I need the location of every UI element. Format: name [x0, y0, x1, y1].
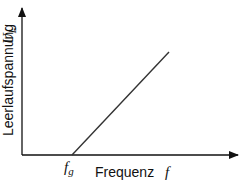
threshold-frequency-label: fg — [64, 159, 74, 177]
voltage-line — [72, 52, 169, 155]
x-axis-symbol: f — [165, 164, 171, 180]
x-axis-label: Frequenz — [95, 164, 154, 180]
diagram: Leerlaufspannung UL fg Frequenz f — [0, 0, 242, 181]
